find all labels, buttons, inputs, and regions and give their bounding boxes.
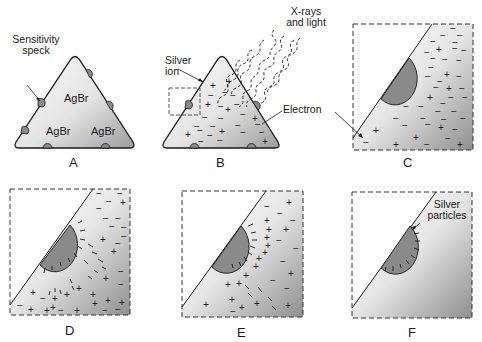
panel-c: −−− −−+− −−−−− −+−− −+−− +−−− −−−− −−−− … (335, 23, 473, 150)
svg-text:−: − (264, 201, 270, 212)
label-agbr-top: AgBr (64, 93, 88, 104)
svg-text:−: − (222, 87, 228, 98)
svg-text:+: + (92, 298, 98, 309)
svg-text:−: − (96, 188, 102, 199)
svg-text:+: + (373, 125, 379, 136)
svg-text:+: + (28, 304, 34, 315)
svg-text:+: + (393, 139, 399, 150)
svg-text:−: − (230, 306, 236, 317)
svg-text:+: + (262, 136, 268, 147)
panel-label-e: E (237, 325, 246, 340)
svg-text:−: − (452, 43, 458, 54)
svg-text:−: − (202, 112, 208, 123)
svg-text:−: − (456, 55, 462, 66)
svg-text:+: + (225, 104, 231, 115)
panel-label-c: C (403, 155, 412, 170)
svg-text:+: + (438, 122, 444, 133)
svg-text:+: + (427, 92, 433, 103)
electron-pointer (262, 111, 282, 124)
svg-text:+: + (457, 139, 463, 150)
svg-text:+: + (283, 224, 289, 235)
svg-text:−: − (197, 125, 203, 136)
label-sensitivity-speck: Sensitivity speck (8, 34, 64, 56)
svg-text:−: − (96, 203, 102, 214)
svg-text:−: − (293, 243, 299, 254)
panel-b-crystal: ++ −−− ++− −−− −+− −−− +−− +−− −−+ (163, 30, 300, 148)
svg-text:+: + (288, 268, 294, 279)
svg-text:−: − (40, 293, 46, 304)
svg-text:−: − (270, 275, 276, 286)
svg-text:−: − (58, 305, 64, 316)
label-electron: Electron (283, 104, 322, 115)
label-silver-particles: Silver particles (425, 199, 469, 221)
svg-text:−: − (450, 23, 456, 34)
svg-text:−: − (425, 71, 431, 82)
label-xrays-and-light: X-rays and light (285, 6, 327, 28)
svg-text:+: + (50, 302, 56, 313)
panel-e: ++++ ++++ ++ +−−− +−−− +−− ++++ +− (182, 191, 303, 317)
svg-text:−: − (456, 71, 462, 82)
svg-text:+: + (103, 273, 109, 284)
panel-label-d: D (65, 323, 74, 338)
svg-text:−: − (457, 30, 463, 41)
svg-text:+: + (120, 197, 126, 208)
svg-text:−: − (284, 283, 290, 294)
svg-text:−: − (363, 137, 369, 148)
svg-text:−: − (393, 113, 399, 124)
svg-text:−: − (240, 127, 246, 138)
svg-text:−: − (276, 235, 282, 246)
svg-text:−: − (452, 124, 458, 135)
svg-text:+: + (76, 283, 82, 294)
svg-text:−: − (433, 82, 439, 93)
svg-text:+: + (111, 246, 117, 257)
svg-text:+: + (74, 305, 80, 316)
diagram-canvas: ++ −−− ++− −−− −+− −−− +−− +−− −−+ −−− −… (0, 0, 482, 342)
svg-text:−: − (198, 136, 204, 147)
svg-text:−: − (106, 196, 112, 207)
svg-text:−: − (425, 119, 431, 130)
svg-text:−: − (290, 215, 296, 226)
svg-text:−: − (218, 113, 224, 124)
svg-text:−: − (403, 101, 409, 112)
svg-text:−: − (118, 266, 124, 277)
panel-label-f: F (408, 325, 416, 340)
svg-text:+: + (226, 76, 232, 87)
svg-text:−: − (280, 256, 286, 267)
svg-text:−: − (115, 304, 121, 315)
svg-text:−: − (207, 130, 213, 141)
svg-text:−: − (217, 135, 223, 146)
svg-text:+: + (253, 261, 259, 272)
svg-text:−: − (440, 98, 446, 109)
svg-text:−: − (17, 300, 23, 311)
panel-label-b: B (216, 155, 225, 170)
svg-text:−: − (118, 279, 124, 290)
svg-text:+: + (239, 302, 245, 313)
svg-text:−: − (442, 54, 448, 65)
svg-text:+: + (285, 300, 291, 311)
svg-text:−: − (451, 106, 457, 117)
svg-text:+: + (236, 278, 242, 289)
panel-label-a: A (69, 155, 78, 170)
svg-text:+: + (286, 197, 292, 208)
svg-text:+: + (203, 299, 209, 310)
svg-text:−: − (109, 221, 115, 232)
svg-text:−: − (424, 139, 430, 150)
svg-text:+: + (413, 132, 419, 143)
svg-text:−: − (445, 133, 451, 144)
label-agbr-left: AgBr (46, 126, 70, 137)
svg-text:+: + (205, 99, 211, 110)
svg-text:+: + (243, 270, 249, 281)
svg-text:+: + (64, 289, 70, 300)
svg-text:−: − (418, 101, 424, 112)
svg-text:+: + (254, 298, 260, 309)
svg-text:−: − (277, 208, 283, 219)
svg-text:−: − (461, 45, 467, 56)
svg-text:−: − (240, 109, 246, 120)
svg-text:+: + (185, 129, 191, 140)
svg-text:+: + (225, 279, 231, 290)
svg-text:+: + (229, 294, 235, 305)
svg-text:−: − (462, 92, 468, 103)
panel-d: −−−+ −−−− −+−− +−+− ++++ −+++ +−++ +−+− … (10, 188, 130, 316)
electron-pointer-c (335, 112, 363, 138)
label-silver-ion: Silver ion (165, 55, 199, 77)
